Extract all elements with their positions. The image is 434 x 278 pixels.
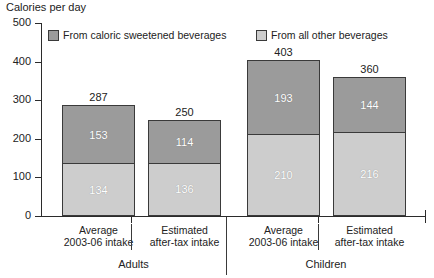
category-label-3-line2: after-tax intake: [319, 236, 420, 248]
bar-0-total-label: 287: [62, 91, 135, 103]
category-label-1-line1: Estimated: [161, 224, 208, 236]
bar-2[interactable]: 193210: [247, 60, 320, 216]
category-label-2-line1: Average: [264, 224, 303, 236]
y-tick-0: [35, 216, 41, 217]
category-label-0-line1: Average: [79, 224, 118, 236]
bar-2-segment-all-other: 210: [248, 135, 319, 215]
category-divider-0: [131, 224, 132, 250]
bar-0-segment-all-other: 134: [63, 164, 134, 215]
chart-legend: From caloric sweetened beverages From al…: [0, 0, 434, 22]
category-label-3: Estimatedafter-tax intake: [319, 224, 420, 248]
category-label-3-line1: Estimated: [346, 224, 393, 236]
x-tick-0: [131, 216, 132, 223]
bar-3-segment-caloric-sweetened: 144: [334, 78, 405, 133]
category-label-1-line2: after-tax intake: [134, 236, 235, 248]
plot-area: 153134287114136250193210403144216360: [41, 23, 425, 216]
bar-3[interactable]: 144216: [333, 77, 406, 216]
y-tick-label-500: 500: [1, 16, 31, 28]
x-tick-2: [318, 216, 319, 223]
group-label-adults: Adults: [41, 258, 226, 270]
y-tick-label-300: 300: [1, 93, 31, 105]
group-label-children: Children: [226, 258, 426, 270]
category-divider-1: [318, 224, 319, 250]
y-tick-label-400: 400: [1, 55, 31, 67]
bar-1[interactable]: 114136: [148, 120, 221, 217]
bar-3-segment-all-other: 216: [334, 133, 405, 215]
category-label-1: Estimatedafter-tax intake: [134, 224, 235, 248]
y-tick-label-0: 0: [1, 209, 31, 221]
bar-0-segment-caloric-sweetened: 153: [63, 106, 134, 164]
bar-1-segment-all-other: 136: [149, 164, 220, 215]
bar-1-segment-caloric-sweetened: 114: [149, 121, 220, 164]
bar-2-segment-caloric-sweetened: 193: [248, 61, 319, 135]
y-tick-label-200: 200: [1, 132, 31, 144]
bar-3-total-label: 360: [333, 63, 406, 75]
group-divider: [226, 217, 227, 275]
bar-1-total-label: 250: [148, 106, 221, 118]
x-tick-3: [425, 216, 426, 223]
bar-0[interactable]: 153134: [62, 105, 135, 216]
bar-2-total-label: 403: [247, 46, 320, 58]
stacked-bar-chart: Calories per day From caloric sweetened …: [0, 0, 434, 278]
y-tick-label-100: 100: [1, 170, 31, 182]
x-axis-line: [41, 216, 426, 217]
